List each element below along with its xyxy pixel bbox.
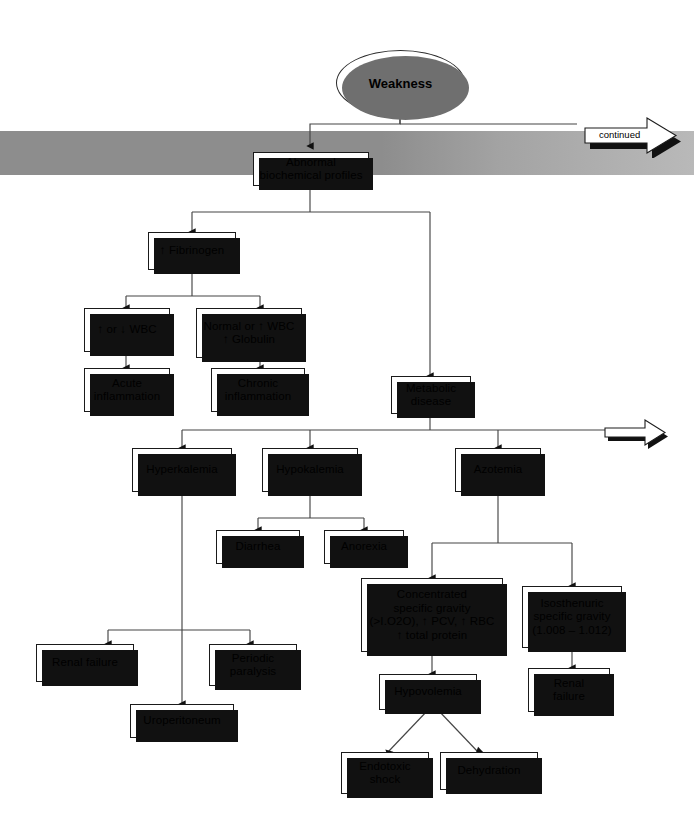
node-acute-inflammation-label: Acute inflammation xyxy=(91,377,163,404)
node-hypovolemia-label: Hypovolemia xyxy=(391,685,465,699)
node-uroperitoneum[interactable]: Uroperitoneum xyxy=(130,704,234,738)
node-abnormal-biochemical-profiles-label: Abnormal biochemical profiles xyxy=(257,156,366,183)
node-periodic-paralysis[interactable]: Periodic paralysis xyxy=(209,644,297,686)
node-wbc-up-or-down-label: ↑ or ↓ WBC xyxy=(94,323,159,337)
node-renal-failure-right-label: Renal failure xyxy=(550,677,588,704)
node-fibrinogen[interactable]: ↑ Fibrinogen xyxy=(148,232,236,270)
node-hypokalemia[interactable]: Hypokalemia xyxy=(262,448,358,492)
node-dehydration-label: Dehydration xyxy=(454,764,523,778)
node-endotoxic-shock[interactable]: Endotoxic shock xyxy=(341,752,429,794)
node-wbc-up-or-down[interactable]: ↑ or ↓ WBC xyxy=(84,308,170,352)
node-renal-failure-left-label: Renal failure xyxy=(49,656,121,670)
node-periodic-paralysis-label: Periodic paralysis xyxy=(227,652,279,679)
node-chronic-inflammation[interactable]: Chronic inflammation xyxy=(211,368,305,412)
node-fibrinogen-label: ↑ Fibrinogen xyxy=(157,244,227,258)
node-endotoxic-shock-label: Endotoxic shock xyxy=(356,760,413,787)
node-chronic-inflammation-label: Chronic inflammation xyxy=(222,377,294,404)
node-anorexia-label: Anorexia xyxy=(338,540,390,554)
node-concentrated-specific-gravity-label: Concentrated specific gravity (>I.O2O), … xyxy=(367,588,498,642)
node-hypovolemia[interactable]: Hypovolemia xyxy=(379,674,477,710)
node-abnormal-biochemical-profiles[interactable]: Abnormal biochemical profiles xyxy=(253,152,369,186)
continued-arrow-label: continued xyxy=(599,129,640,140)
node-diarrhea[interactable]: Diarrhea xyxy=(216,530,300,564)
continued-arrow-lower[interactable] xyxy=(603,416,673,450)
node-weakness[interactable]: Weakness xyxy=(336,50,465,116)
node-anorexia[interactable]: Anorexia xyxy=(324,530,404,564)
node-hyperkalemia-label: Hyperkalemia xyxy=(143,463,221,477)
node-azotemia[interactable]: Azotemia xyxy=(455,448,541,492)
node-metabolic-disease[interactable]: Metabolic disease xyxy=(391,376,471,414)
node-hyperkalemia[interactable]: Hyperkalemia xyxy=(132,448,232,492)
node-isosthenuric-specific-gravity-label: Isosthenuric specific gravity (1.008 – 1… xyxy=(529,597,615,638)
node-renal-failure-right[interactable]: Renal failure xyxy=(528,668,610,712)
continued-arrow[interactable]: continued xyxy=(577,112,685,158)
node-metabolic-disease-label: Metabolic disease xyxy=(403,382,459,409)
node-diarrhea-label: Diarrhea xyxy=(233,540,284,554)
node-concentrated-specific-gravity[interactable]: Concentrated specific gravity (>I.O2O), … xyxy=(361,578,503,652)
node-uroperitoneum-label: Uroperitoneum xyxy=(140,714,223,728)
node-azotemia-label: Azotemia xyxy=(471,463,526,477)
node-acute-inflammation[interactable]: Acute inflammation xyxy=(84,368,170,412)
node-isosthenuric-specific-gravity[interactable]: Isosthenuric specific gravity (1.008 – 1… xyxy=(522,586,622,648)
node-weakness-label: Weakness xyxy=(369,76,432,91)
flowchart-canvas: Weakness Abnormal biochemical profiles ↑… xyxy=(0,0,694,834)
node-hypokalemia-label: Hypokalemia xyxy=(273,463,347,477)
node-normal-or-up-wbc-globulin[interactable]: Normal or ↑ WBC ↑ Globulin xyxy=(196,308,302,358)
node-normal-or-up-wbc-globulin-label: Normal or ↑ WBC ↑ Globulin xyxy=(201,320,298,347)
node-dehydration[interactable]: Dehydration xyxy=(440,752,538,790)
node-renal-failure-left[interactable]: Renal failure xyxy=(36,644,134,682)
